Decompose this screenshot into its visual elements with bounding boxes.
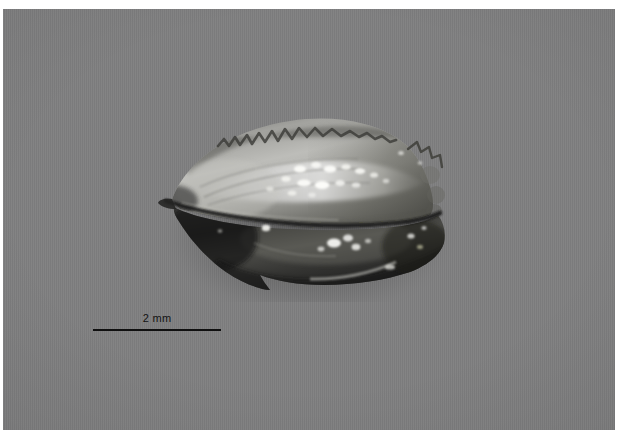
scale-bar: 2 mm: [93, 312, 221, 334]
photo-plate: 2 mm: [3, 9, 615, 430]
scale-bar-label: 2 mm: [93, 312, 221, 325]
specimen: [158, 97, 463, 302]
specimen-artwork: [158, 97, 463, 302]
specimen-figure: 2 mm: [0, 0, 619, 434]
scale-bar-line: [93, 329, 221, 331]
